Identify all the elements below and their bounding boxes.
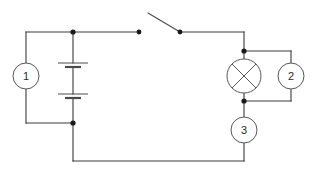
switch-lever[interactable] [148,13,180,32]
meter-1: 1 [13,63,39,89]
lamp-crossed-circle-icon [227,59,261,93]
node-top-left-junction [70,29,75,34]
node-dot-group [70,29,246,125]
meter-3: 3 [231,117,257,143]
open-switch-icon[interactable] [148,13,180,32]
circuit-diagram: 1 2 3 [0,0,324,178]
node-switch-left-contact [137,30,142,35]
node-lamp-bottom-junction [241,98,246,103]
meter-1-label: 1 [23,70,29,82]
node-switch-pivot [178,30,183,35]
meter-2: 2 [278,63,304,89]
meter-3-label: 3 [241,124,247,136]
node-lamp-top-junction [241,48,246,53]
circuit-svg-canvas: 1 2 3 [0,0,324,178]
wire-group [26,32,291,161]
node-bottom-left-junction [70,120,75,125]
meter-2-label: 2 [288,70,294,82]
